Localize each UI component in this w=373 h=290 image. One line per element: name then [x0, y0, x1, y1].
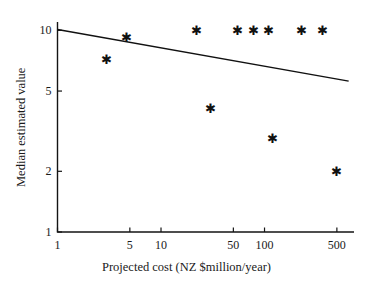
x-tick-label: 500	[328, 239, 346, 251]
x-tick-label: 100	[256, 239, 274, 251]
x-axis-label: Projected cost (NZ $million/year)	[0, 260, 373, 275]
figure-container: ✱✱✱✱✱✱✱✱✱✱✱ 151050100500 12510 Projected…	[0, 0, 373, 290]
data-point-marker: ✱	[101, 52, 112, 67]
data-point-marker: ✱	[121, 30, 132, 45]
data-points: ✱✱✱✱✱✱✱✱✱✱✱	[101, 23, 342, 179]
data-point-marker: ✱	[317, 23, 328, 38]
data-point-marker: ✱	[296, 23, 307, 38]
data-point-marker: ✱	[331, 164, 342, 179]
data-point-marker: ✱	[267, 131, 278, 146]
x-tick-label: 1	[55, 239, 61, 251]
y-tick-label: 10	[40, 24, 52, 36]
data-point-marker: ✱	[232, 23, 243, 38]
data-point-marker: ✱	[248, 23, 259, 38]
x-tick-label: 10	[155, 239, 167, 251]
data-point-marker: ✱	[191, 23, 202, 38]
tick-marks	[58, 30, 337, 232]
data-point-marker: ✱	[263, 23, 274, 38]
data-point-marker: ✱	[205, 101, 216, 116]
y-tick-label: 5	[46, 85, 52, 97]
x-tick-label: 5	[127, 239, 133, 251]
y-tick-label: 2	[46, 165, 52, 177]
x-tick-label: 50	[227, 239, 239, 251]
y-axis-label: Median estimated value	[14, 67, 29, 186]
y-tick-label: 1	[46, 226, 52, 238]
